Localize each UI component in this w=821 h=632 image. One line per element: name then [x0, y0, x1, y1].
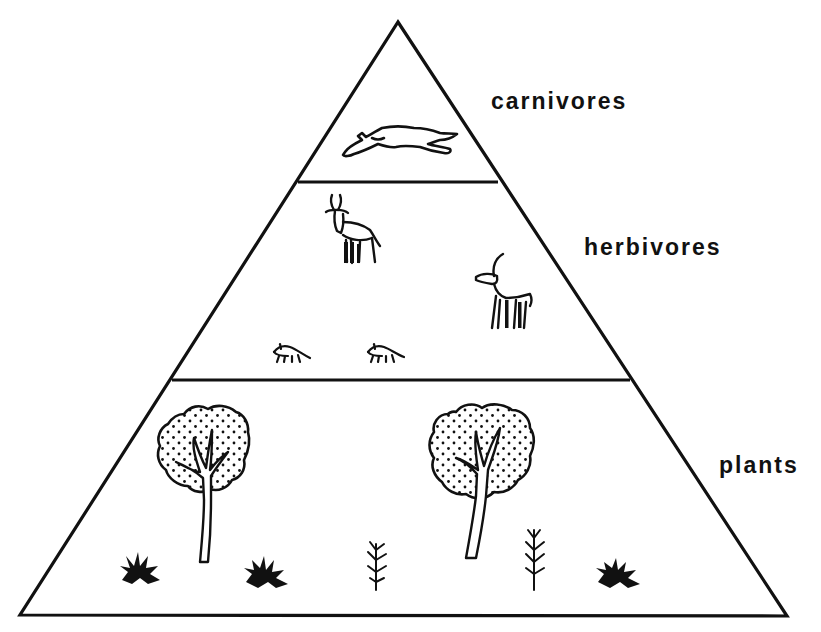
- food-pyramid-diagram: [0, 0, 821, 632]
- pyramid-outline: [20, 22, 787, 616]
- label-carnivores: carnivores: [491, 88, 627, 115]
- gazelle-icon: [476, 254, 532, 328]
- seedling-icon: [526, 530, 544, 590]
- label-plants: plants: [719, 452, 799, 479]
- seedling-icon: [368, 542, 386, 590]
- rodent-icon: [368, 344, 404, 362]
- label-herbivores: herbivores: [584, 234, 722, 261]
- grass-tuft-icon: [244, 556, 288, 588]
- cheetah-icon: [343, 127, 457, 157]
- tree-icon: [430, 404, 534, 558]
- antelope-legs: [344, 242, 360, 263]
- rodent-icon: [274, 344, 310, 362]
- grass-tuft-icon: [596, 558, 640, 588]
- tree-icon: [158, 406, 249, 562]
- grass-tuft-icon: [120, 552, 160, 584]
